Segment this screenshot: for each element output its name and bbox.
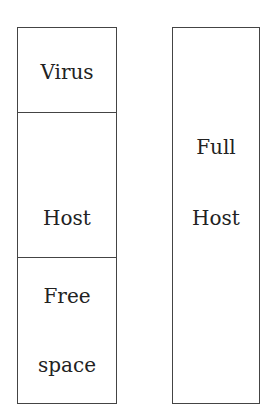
virus-label: Virus: [17, 60, 117, 84]
free-label: Free: [17, 284, 117, 308]
full-host-label: Host: [172, 206, 260, 230]
host-label: Host: [17, 206, 117, 230]
space-label: space: [17, 353, 117, 377]
full-label: Full: [172, 135, 260, 159]
host-free-divider: [17, 257, 117, 258]
virus-host-divider: [17, 112, 117, 113]
